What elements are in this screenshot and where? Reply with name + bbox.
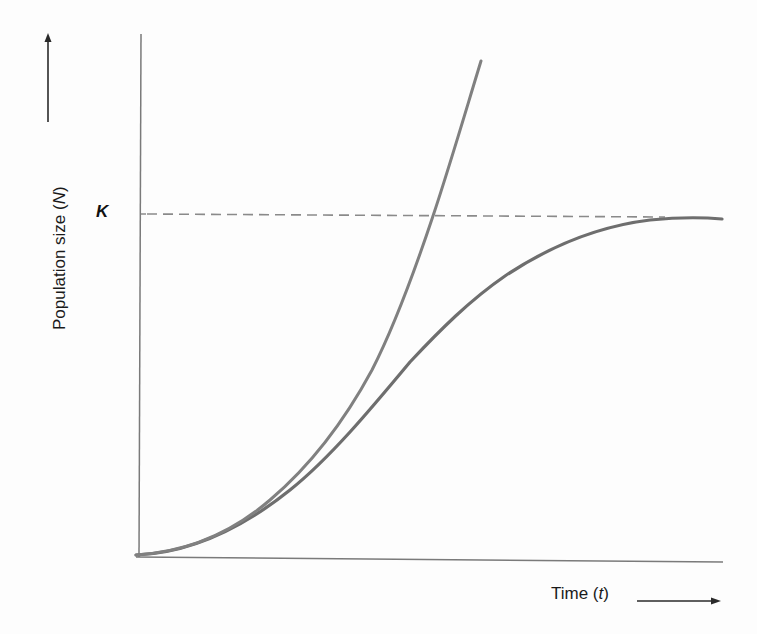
y-axis-label-prefix: Population size ( bbox=[50, 204, 69, 330]
y-axis-arrow bbox=[45, 33, 52, 122]
x-axis-line bbox=[136, 557, 723, 562]
y-axis-label-variable: N bbox=[50, 192, 69, 204]
x-axis-arrow bbox=[637, 598, 721, 605]
growth-plot bbox=[0, 0, 757, 634]
x-axis-label-suffix: ) bbox=[603, 584, 609, 603]
carrying-capacity-label: K bbox=[96, 202, 108, 222]
y-axis-line bbox=[139, 34, 141, 557]
y-axis-label: Population size (N) bbox=[30, 130, 70, 330]
logistic-growth-curve bbox=[136, 218, 722, 555]
x-axis-label: Time (t) bbox=[551, 584, 609, 604]
carrying-capacity-line bbox=[147, 214, 665, 217]
x-axis-label-prefix: Time ( bbox=[551, 584, 599, 603]
logistic-vs-exponential-growth-figure: Population size (N) K Time (t) bbox=[0, 0, 757, 634]
y-axis-label-suffix: ) bbox=[50, 186, 69, 192]
exponential-growth-curve bbox=[136, 61, 481, 555]
